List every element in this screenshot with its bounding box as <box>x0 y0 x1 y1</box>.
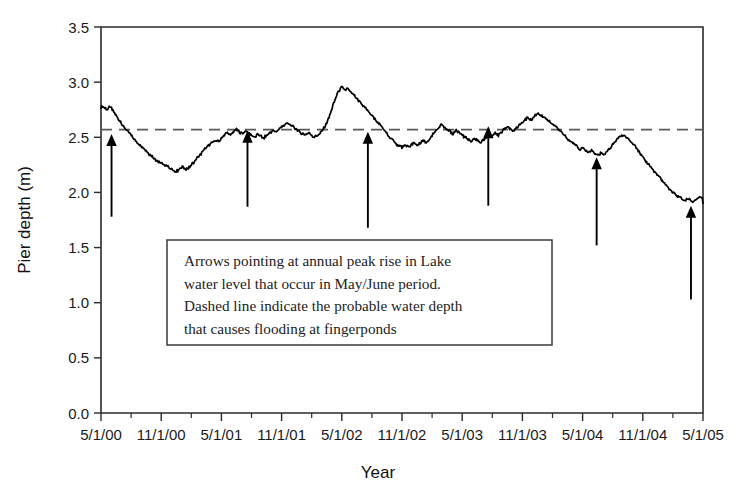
x-tick-label: 11/1/01 <box>257 426 306 443</box>
x-tick-label: 5/1/05 <box>682 426 724 443</box>
x-tick-label: 11/1/03 <box>498 426 547 443</box>
y-tick-label: 1.0 <box>68 294 89 311</box>
annotation-line: that causes flooding at fingerponds <box>184 320 397 337</box>
annotation-textbox: Arrows pointing at annual peak rise in L… <box>167 240 552 345</box>
annotation-line: water level that occur in May/June perio… <box>184 275 441 292</box>
y-tick-label: 2.5 <box>68 129 89 146</box>
x-tick-label: 5/1/02 <box>321 426 363 443</box>
x-tick-label: 5/1/00 <box>80 426 122 443</box>
pier-depth-line-chart: 0.00.51.01.52.02.53.03.5 5/1/0011/1/005/… <box>0 0 742 499</box>
x-tick-label: 11/1/00 <box>137 426 186 443</box>
y-tick-label: 3.5 <box>68 19 89 36</box>
y-tick-label: 0.0 <box>68 405 89 422</box>
y-tick-label: 3.0 <box>68 74 89 91</box>
x-tick-label: 11/1/02 <box>378 426 427 443</box>
x-tick-label: 11/1/04 <box>618 426 667 443</box>
annotation-line: Arrows pointing at annual peak rise in L… <box>184 252 451 269</box>
x-tick-label: 5/1/01 <box>201 426 243 443</box>
x-tick-label: 5/1/03 <box>441 426 483 443</box>
y-axis-title: Pier depth (m) <box>15 166 34 274</box>
y-tick-label: 1.5 <box>68 239 89 256</box>
chart-figure: 0.00.51.01.52.02.53.03.5 5/1/0011/1/005/… <box>0 0 742 499</box>
x-axis-title: Year <box>361 463 396 482</box>
annotation-line: Dashed line indicate the probable water … <box>184 297 463 314</box>
y-tick-label: 0.5 <box>68 349 89 366</box>
x-axis-tick-labels: 5/1/0011/1/005/1/0111/1/015/1/0211/1/025… <box>80 426 724 443</box>
y-tick-label: 2.0 <box>68 184 89 201</box>
x-tick-label: 5/1/04 <box>562 426 604 443</box>
